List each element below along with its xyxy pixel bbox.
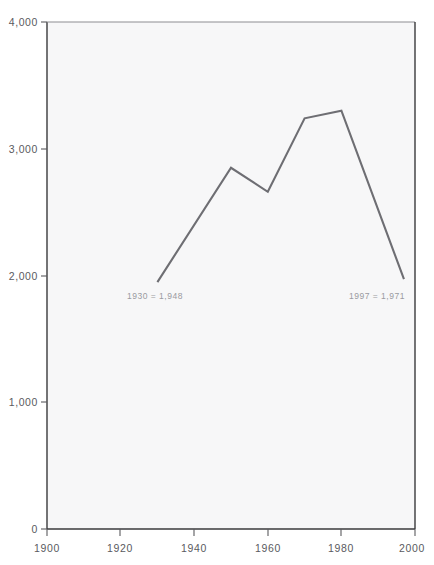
x-axis-label-1900: 1900 xyxy=(34,542,60,554)
chart-plot-svg: 4,000 3,000 2,000 1,000 0 1900 1920 1940… xyxy=(0,0,434,565)
annotation-1930: 1930 = 1,948 xyxy=(127,291,183,301)
y-tick-marks xyxy=(41,22,47,529)
x-axis-label-1940: 1940 xyxy=(181,542,207,554)
x-tick-marks xyxy=(47,529,415,536)
x-axis-label-2000: 2000 xyxy=(399,542,425,554)
x-axis-label-1960: 1960 xyxy=(255,542,281,554)
x-axis-labels: 1900 1920 1940 1960 1980 2000 xyxy=(34,542,425,554)
annotation-1997: 1997 = 1,971 xyxy=(349,291,405,301)
x-axis-label-1980: 1980 xyxy=(328,542,354,554)
x-axis-label-1920: 1920 xyxy=(107,542,133,554)
y-axis-label-2000: 2,000 xyxy=(9,270,38,282)
y-axis-label-4000: 4,000 xyxy=(9,16,38,28)
plot-background xyxy=(47,22,415,529)
y-axis-label-1000: 1,000 xyxy=(9,396,38,408)
y-axis-label-3000: 3,000 xyxy=(9,143,38,155)
y-axis-labels: 4,000 3,000 2,000 1,000 0 xyxy=(9,16,38,535)
line-chart: 4,000 3,000 2,000 1,000 0 1900 1920 1940… xyxy=(0,0,434,565)
y-axis-label-0: 0 xyxy=(32,523,38,535)
